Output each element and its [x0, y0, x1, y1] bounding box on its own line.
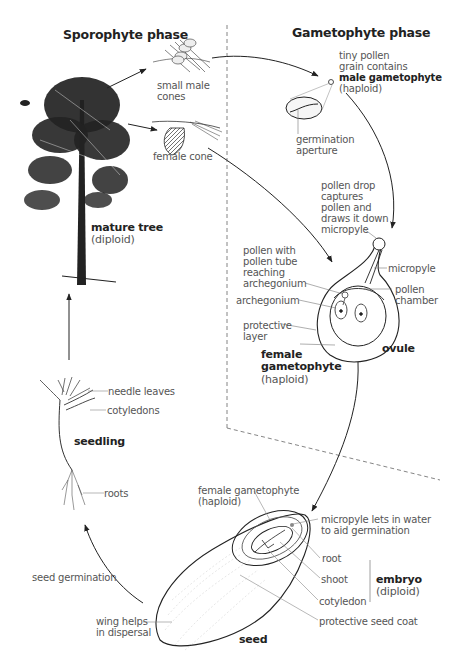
germination-aperture-label: germination aperture	[296, 134, 354, 156]
small-male-cones-label: small male cones	[157, 80, 210, 102]
arrow-male-cones-to-pollen	[212, 56, 318, 76]
protective-seed-coat-label: protective seed coat	[319, 616, 418, 627]
pine-tree-illustration	[20, 77, 130, 285]
needle-leaves-label: needle leaves	[108, 386, 175, 397]
arrow-tree-to-female-cone	[128, 124, 157, 130]
seed-female-gametophyte-label: female gametophyte (haploid)	[198, 485, 299, 507]
female-cone-label: female cone	[153, 151, 213, 162]
mature-tree-label: mature tree	[91, 222, 163, 233]
female-gametophyte-label: female gametophyte	[261, 349, 341, 373]
micropyle-water-label: micropyle lets in water to aid germinati…	[321, 514, 431, 536]
root-label: root	[322, 553, 341, 564]
sporophyte-phase-heading: Sporophyte phase	[63, 27, 188, 42]
archegonium-label: archegonium	[236, 295, 299, 306]
male-cones-illustration	[153, 39, 210, 72]
arrow-ovule-to-seed	[312, 362, 358, 511]
ovule-label: ovule	[382, 343, 415, 354]
embryo-ploidy: (diploid)	[376, 586, 420, 597]
pollen-grain-illustration	[286, 80, 334, 135]
wing-label: wing helps in dispersal	[96, 616, 151, 638]
micropyle-label: micropyle	[388, 263, 435, 274]
embryo-label: embryo	[376, 574, 422, 585]
cotyledons-label: cotyledons	[107, 405, 159, 416]
seedling-label: seedling	[74, 436, 125, 447]
cotyledon-label: cotyledon	[319, 596, 366, 607]
shoot-label: shoot	[321, 574, 348, 585]
male-gametophyte-ploidy: (haploid)	[339, 83, 382, 94]
gametophyte-phase-heading: Gametophyte phase	[292, 25, 430, 40]
pollen-grain-label: tiny pollen grain contains	[339, 50, 407, 72]
male-gametophyte-label: male gametophyte	[339, 72, 442, 83]
female-gametophyte-ploidy: (haploid)	[261, 374, 308, 385]
seed-leaders	[143, 491, 320, 622]
protective-layer-label: protective layer	[243, 320, 292, 342]
seed-label: seed	[239, 634, 268, 645]
arrow-tree-to-male-cones	[107, 69, 146, 88]
mature-tree-ploidy: (diploid)	[91, 234, 135, 245]
pine-life-cycle-diagram	[0, 0, 459, 669]
pollen-drop-label: pollen drop captures pollen and draws it…	[321, 180, 388, 235]
roots-label: roots	[104, 488, 128, 499]
pollen-chamber-label: pollen chamber	[395, 284, 438, 306]
arrow-seed-to-seedling	[85, 525, 143, 603]
pollen-tube-label: pollen with pollen tube reaching archego…	[243, 245, 306, 289]
seed-germination-label: seed germination	[32, 572, 116, 583]
